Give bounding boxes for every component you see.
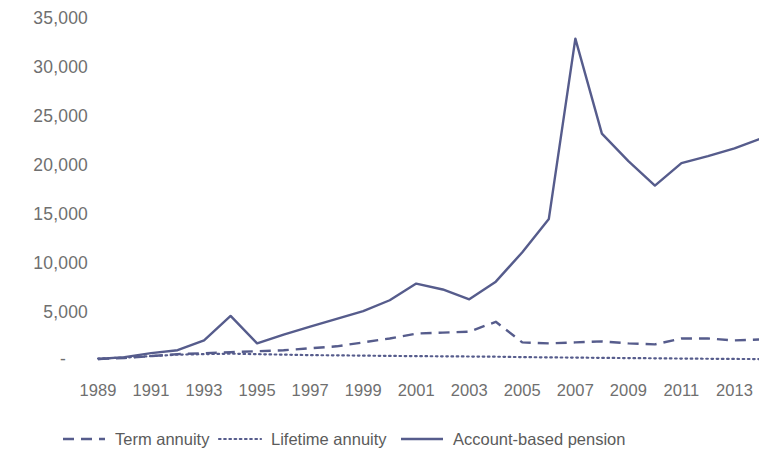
legend-swatch-dotted-line-icon [218, 432, 262, 446]
x-axis: 1989199119931995199719992001200320052007… [92, 382, 759, 408]
y-axis-tick-label: - [4, 351, 88, 369]
legend-swatch-dashed-line-icon [62, 432, 106, 446]
x-axis-tick-label: 2011 [663, 382, 699, 399]
y-axis-tick-label: 30,000 [4, 59, 88, 77]
chart-legend: Term annuityLifetime annuityAccount-base… [0, 424, 759, 458]
x-axis-tick-label: 2005 [504, 382, 541, 399]
series-line-lifetime-annuity [98, 354, 759, 359]
y-axis: -5,00010,00015,00020,00025,00030,00035,0… [0, 0, 88, 380]
x-axis-tick-label: 1993 [186, 382, 223, 399]
y-axis-tick-label: 15,000 [4, 206, 88, 224]
series-line-account-based-pension [98, 39, 759, 359]
x-axis-tick-label: 2007 [557, 382, 594, 399]
plot-area [92, 0, 759, 378]
y-axis-tick-label: 10,000 [4, 255, 88, 273]
y-axis-tick-label: 35,000 [4, 10, 88, 28]
x-axis-tick-label: 2001 [398, 382, 435, 399]
x-axis-tick-label: 1989 [79, 382, 116, 399]
legend-label: Term annuity [115, 431, 209, 448]
line-chart: -5,00010,00015,00020,00025,00030,00035,0… [0, 0, 759, 459]
legend-item-account-based-pension[interactable]: Account-based pension [400, 424, 625, 454]
legend-item-term-annuity[interactable]: Term annuity [62, 424, 209, 454]
plot-svg [92, 0, 759, 378]
x-axis-tick-label: 2009 [610, 382, 647, 399]
y-axis-tick-label: 25,000 [4, 108, 88, 126]
x-axis-tick-label: 1999 [345, 382, 382, 399]
y-axis-tick-label: 20,000 [4, 157, 88, 175]
x-axis-tick-label: 1995 [239, 382, 276, 399]
legend-item-lifetime-annuity[interactable]: Lifetime annuity [218, 424, 387, 454]
x-axis-tick-label: 1997 [292, 382, 329, 399]
x-axis-tick-label: 2013 [716, 382, 753, 399]
legend-label: Lifetime annuity [271, 431, 387, 448]
x-axis-tick-label: 1991 [132, 382, 169, 399]
x-axis-tick-label: 2003 [451, 382, 488, 399]
y-axis-tick-label: 5,000 [4, 304, 88, 322]
legend-swatch-solid-line-icon [400, 432, 444, 446]
legend-label: Account-based pension [453, 431, 625, 448]
